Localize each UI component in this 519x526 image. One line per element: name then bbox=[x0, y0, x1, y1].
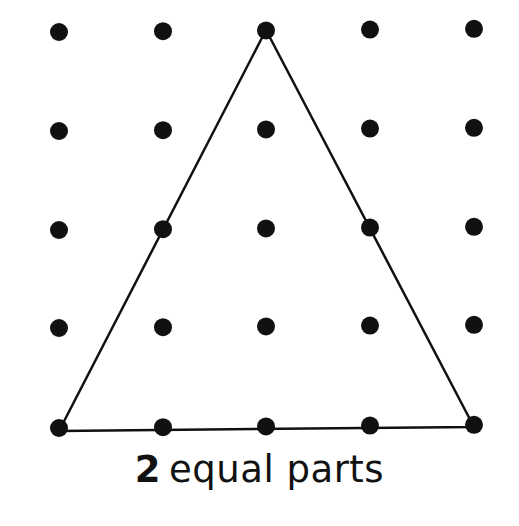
grid-dot bbox=[257, 417, 275, 435]
grid-dot bbox=[465, 316, 483, 334]
grid-dot bbox=[465, 119, 483, 137]
grid-dot bbox=[50, 23, 68, 41]
grid-dot bbox=[465, 20, 483, 38]
grid-dot bbox=[361, 21, 379, 39]
grid-dot bbox=[50, 319, 68, 337]
grid-dot bbox=[361, 317, 379, 335]
grid-dot bbox=[154, 22, 172, 40]
grid-dot bbox=[465, 218, 483, 236]
grid-dot bbox=[257, 120, 275, 138]
grid-dot bbox=[50, 419, 68, 437]
grid-dot bbox=[257, 219, 275, 237]
grid-dot bbox=[50, 122, 68, 140]
dot-grid bbox=[50, 20, 483, 437]
grid-dot bbox=[154, 418, 172, 436]
grid-dot bbox=[154, 121, 172, 139]
caption-text: equal parts bbox=[169, 448, 384, 491]
grid-dot bbox=[154, 318, 172, 336]
grid-dot bbox=[257, 317, 275, 335]
grid-dot bbox=[361, 120, 379, 138]
parts-count: 2 bbox=[135, 448, 161, 491]
grid-dot bbox=[361, 417, 379, 435]
grid-dot bbox=[50, 221, 68, 239]
caption: 2equal parts bbox=[0, 448, 519, 491]
